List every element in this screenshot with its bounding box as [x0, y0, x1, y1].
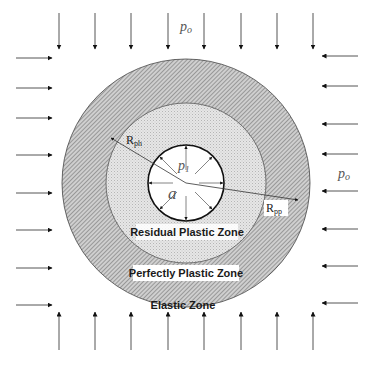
left-pressure-arrows — [16, 58, 52, 305]
perfect-zone-label: Perfectly Plastic Zone — [129, 267, 243, 279]
outer-pressure-label-right: po — [337, 166, 350, 182]
elastic-zone-label: Elastic Zone — [151, 299, 216, 311]
cavity-expansion-diagram: po po p1 a Rph Rpp Residual Plastic Zone… — [0, 0, 373, 365]
bottom-pressure-arrows — [59, 312, 313, 350]
residual-zone-label: Residual Plastic Zone — [130, 226, 244, 238]
cavity-radius-label: a — [168, 184, 177, 203]
outer-pressure-label-top: po — [179, 19, 192, 35]
